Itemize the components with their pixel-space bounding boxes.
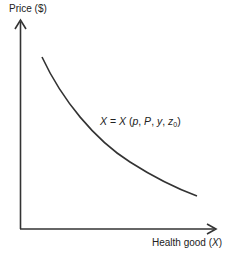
x-axis-variable: X <box>212 237 219 248</box>
x-axis-label-close: ) <box>219 237 222 248</box>
eq-close-paren: ) <box>177 115 181 127</box>
eq-sign: = <box>107 115 119 127</box>
x-axis-label-text: Health good ( <box>152 237 212 248</box>
x-axis-label: Health good (X) <box>152 237 222 248</box>
eq-lhs: X <box>100 115 107 127</box>
y-axis-label: Price ($) <box>9 3 47 14</box>
diagram-canvas <box>0 0 233 256</box>
curve-equation-label: X = X (p, P, y, z0) <box>100 115 181 128</box>
eq-function: X <box>119 115 126 127</box>
